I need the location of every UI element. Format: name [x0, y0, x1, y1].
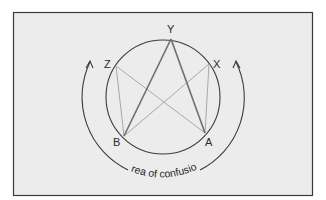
confusion-diagram: Y Z X B A area of confusion [0, 0, 326, 200]
point-label-b: B [113, 136, 120, 148]
point-label-a: A [205, 136, 213, 148]
point-label-x: X [213, 58, 221, 70]
point-label-z: Z [104, 58, 111, 70]
point-label-y: Y [167, 23, 175, 35]
